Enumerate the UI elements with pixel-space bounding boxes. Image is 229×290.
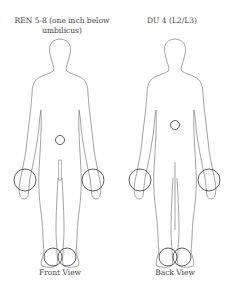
- front-body-outline: [19, 39, 101, 267]
- back-view-caption: Back View: [135, 268, 215, 277]
- lumbar-circle: [171, 121, 180, 130]
- front-markers: [14, 136, 104, 267]
- left-ankle-circle: [44, 248, 62, 266]
- navel-circle: [56, 136, 65, 145]
- left-wrist-circle: [14, 169, 36, 191]
- left-wrist-circle: [129, 169, 151, 191]
- body-diagrams: [0, 0, 229, 290]
- back-body-outline: [134, 39, 216, 267]
- front-view-caption: Front View: [20, 268, 100, 277]
- right-ankle-circle: [173, 248, 191, 266]
- right-ankle-circle: [58, 248, 76, 266]
- right-wrist-circle: [198, 169, 220, 191]
- left-ankle-circle: [159, 248, 177, 266]
- right-wrist-circle: [82, 169, 104, 191]
